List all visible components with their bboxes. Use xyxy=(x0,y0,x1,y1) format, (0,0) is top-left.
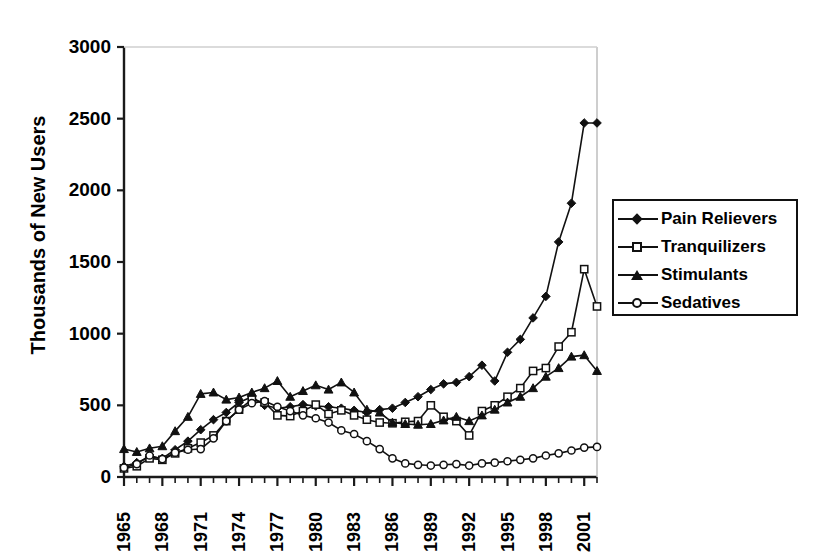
chart-legend: Pain RelieversTranquilizersStimulantsSed… xyxy=(612,199,798,316)
data-point-filled-triangle xyxy=(184,412,193,420)
data-point-open-circle xyxy=(440,461,447,468)
data-point-filled-triangle xyxy=(299,387,308,395)
data-point-filled-triangle xyxy=(337,378,346,386)
data-point-filled-triangle xyxy=(516,392,525,400)
data-point-open-circle xyxy=(453,461,460,468)
data-point-open-circle xyxy=(146,452,153,459)
data-point-open-square xyxy=(555,343,562,350)
data-point-open-circle xyxy=(466,462,473,469)
data-point-filled-triangle xyxy=(541,372,550,380)
data-point-filled-triangle xyxy=(452,412,461,420)
data-point-open-circle xyxy=(491,459,498,466)
data-point-open-circle xyxy=(223,418,230,425)
data-point-open-square xyxy=(338,407,345,414)
data-point-open-circle xyxy=(184,446,191,453)
data-point-filled-diamond xyxy=(542,292,551,301)
data-point-open-square xyxy=(517,385,524,392)
data-point-open-circle xyxy=(555,450,562,457)
legend-item-sedatives[interactable]: Sedatives xyxy=(618,289,740,317)
data-point-filled-triangle xyxy=(273,377,282,385)
data-point-open-circle xyxy=(159,455,166,462)
data-point-open-circle xyxy=(593,443,600,450)
data-point-open-square xyxy=(427,402,434,409)
data-point-open-circle xyxy=(568,447,575,454)
data-point-open-circle xyxy=(248,400,255,407)
legend-label: Stimulants xyxy=(661,265,748,285)
data-point-open-circle xyxy=(402,460,409,467)
data-point-filled-triangle xyxy=(311,381,320,389)
data-point-open-circle xyxy=(120,464,127,471)
legend-label: Tranquilizers xyxy=(661,237,766,257)
data-point-open-circle xyxy=(274,403,281,410)
series-stimulants xyxy=(120,351,602,456)
data-point-open-circle xyxy=(581,444,588,451)
data-point-open-circle xyxy=(325,419,332,426)
data-point-filled-diamond xyxy=(593,119,602,128)
data-point-open-square xyxy=(274,412,281,419)
data-point-open-circle xyxy=(261,397,268,404)
data-point-filled-diamond xyxy=(580,119,589,128)
data-point-open-square xyxy=(466,432,473,439)
legend-label: Pain Relievers xyxy=(661,209,777,229)
data-point-open-circle xyxy=(517,456,524,463)
data-point-filled-diamond xyxy=(567,199,576,208)
data-point-open-circle xyxy=(478,460,485,467)
data-point-open-circle xyxy=(287,407,294,414)
data-point-open-circle xyxy=(133,461,140,468)
data-point-open-square xyxy=(529,367,536,374)
data-point-open-circle xyxy=(172,449,179,456)
data-point-open-square xyxy=(593,303,600,310)
data-point-open-circle xyxy=(414,461,421,468)
data-point-open-circle xyxy=(504,458,511,465)
data-point-open-circle xyxy=(427,462,434,469)
legend-marker-open-square-icon xyxy=(618,240,658,254)
legend-marker-filled-diamond-icon xyxy=(618,212,658,226)
data-point-filled-diamond xyxy=(427,385,436,394)
legend-item-stimulants[interactable]: Stimulants xyxy=(618,261,748,289)
legend-item-pain-relievers[interactable]: Pain Relievers xyxy=(618,205,777,233)
data-point-filled-diamond xyxy=(529,314,538,323)
data-point-open-circle xyxy=(529,455,536,462)
data-point-open-square xyxy=(376,419,383,426)
data-point-open-square xyxy=(363,416,370,423)
data-point-open-circle xyxy=(351,430,358,437)
data-point-open-square xyxy=(568,329,575,336)
legend-marker-open-circle-icon xyxy=(618,296,658,310)
data-point-open-circle xyxy=(299,412,306,419)
data-point-open-circle xyxy=(542,452,549,459)
data-point-open-circle xyxy=(389,455,396,462)
data-point-open-square xyxy=(581,266,588,273)
data-point-open-circle xyxy=(376,445,383,452)
data-point-open-square xyxy=(351,412,358,419)
chart-figure: Thousands of New Users 05001000150020002… xyxy=(0,0,829,556)
data-point-open-square xyxy=(325,410,332,417)
data-point-open-circle xyxy=(312,415,319,422)
data-series-group xyxy=(120,119,602,472)
data-point-filled-diamond xyxy=(414,392,423,401)
data-point-filled-diamond xyxy=(439,380,448,389)
data-point-open-circle xyxy=(235,406,242,413)
legend-marker-filled-triangle-icon xyxy=(618,268,658,282)
data-point-filled-diamond xyxy=(452,378,461,387)
data-point-open-circle xyxy=(338,427,345,434)
data-point-filled-triangle xyxy=(260,384,269,392)
data-point-open-square xyxy=(312,401,319,408)
legend-item-tranquilizers[interactable]: Tranquilizers xyxy=(618,233,766,261)
plot-frame xyxy=(124,47,597,477)
data-point-open-circle xyxy=(210,435,217,442)
data-point-filled-triangle xyxy=(120,445,129,453)
data-point-open-circle xyxy=(197,445,204,452)
data-point-open-circle xyxy=(363,438,370,445)
data-point-filled-diamond xyxy=(388,404,397,413)
data-point-filled-diamond xyxy=(554,238,563,247)
data-point-open-square xyxy=(542,364,549,371)
legend-label: Sedatives xyxy=(661,293,740,313)
data-point-filled-diamond xyxy=(401,398,410,407)
